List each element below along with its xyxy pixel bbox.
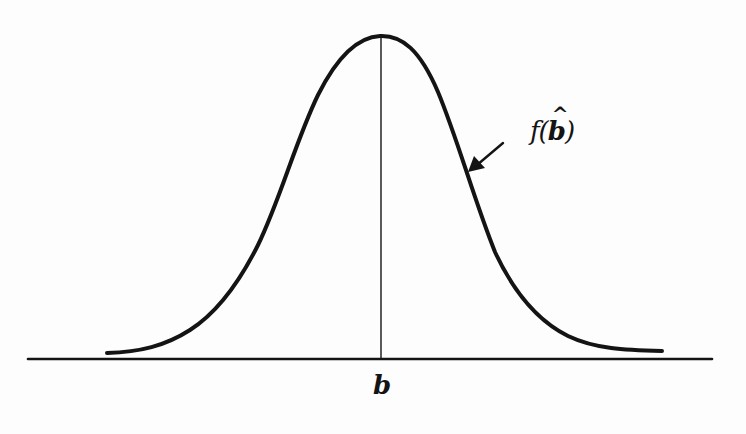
annotation-arrow [477, 143, 503, 165]
curve-label-var-wrap: ^b [548, 116, 565, 146]
diagram-svg [0, 0, 746, 434]
curve-label: f(^b) [530, 116, 574, 146]
arrow-head-icon [468, 156, 485, 172]
curve-label-func: f( [530, 116, 548, 146]
axis-label: b [373, 370, 391, 400]
hat-accent: ^ [552, 102, 568, 126]
figure-canvas: f(^b) b [0, 0, 746, 434]
density-curve [107, 36, 662, 353]
